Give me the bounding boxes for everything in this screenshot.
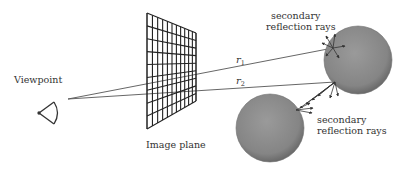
primary-rays (68, 48, 335, 99)
ray-tracing-diagram: Viewpoint Image plane r1 r2 secondary (0, 0, 408, 172)
image-plane-label: Image plane (146, 139, 206, 150)
ray-r2-label: r2 (236, 75, 245, 88)
image-plane-grid (147, 13, 196, 129)
secondary-rays-top-label: secondary reflection rays (266, 10, 336, 32)
secondary-rays-bottom (300, 82, 338, 108)
secondary-rays-bottom-label: secondary reflection rays (317, 114, 387, 136)
ray-r1 (68, 48, 333, 99)
viewpoint-label: Viewpoint (13, 74, 62, 85)
ray-r1-label: r1 (236, 54, 245, 67)
ray-r2 (68, 82, 335, 99)
sphere-lower-left (236, 94, 304, 162)
eye-icon (38, 102, 58, 124)
